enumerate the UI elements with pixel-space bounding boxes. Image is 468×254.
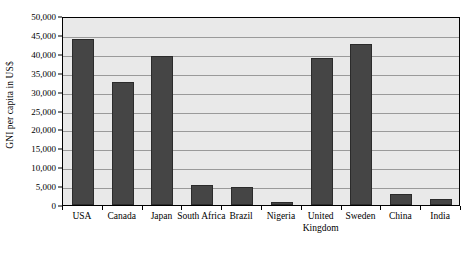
bar-slot (63, 18, 103, 205)
x-axis-tick-mark (261, 206, 262, 210)
bar (151, 56, 173, 205)
bar-slot (262, 18, 302, 205)
bar-slot (342, 18, 382, 205)
bar (430, 199, 452, 205)
y-axis-tick-label: 40,000 (31, 50, 56, 59)
y-axis-tick-label: 10,000 (31, 164, 56, 173)
x-axis-tick-mark (62, 206, 63, 210)
x-axis-tick-label: India (414, 211, 466, 223)
bar-slot (421, 18, 460, 205)
x-axis-tick-mark (142, 206, 143, 210)
x-axis-tick-mark (380, 206, 381, 210)
bar (72, 39, 94, 205)
y-axis-tick-label: 30,000 (31, 88, 56, 97)
y-axis-tick-label: 35,000 (31, 69, 56, 78)
y-axis-tick-label: 50,000 (31, 13, 56, 22)
bar (390, 194, 412, 205)
bar-slot (182, 18, 222, 205)
bar-chart: GNI per capita in US$ 50,00045,00040,000… (0, 0, 468, 254)
bar-slot (222, 18, 262, 205)
x-axis-tick-mark (102, 206, 103, 210)
y-axis-tick-label: 5,000 (36, 183, 56, 192)
x-axis-tick-mark (460, 206, 461, 210)
y-axis-tick-label: 25,000 (31, 107, 56, 116)
y-axis-tick-label: 15,000 (31, 145, 56, 154)
y-axis-tick-label: 45,000 (31, 31, 56, 40)
bar-slot (381, 18, 421, 205)
bar (231, 187, 253, 205)
y-axis-title-text: GNI per capita in US$ (5, 61, 15, 149)
bar-slot (143, 18, 183, 205)
bar (112, 82, 134, 205)
bar-slot (302, 18, 342, 205)
bar-slot (103, 18, 143, 205)
y-axis-tick-label: 0 (52, 202, 57, 211)
bar (311, 58, 333, 205)
bar (350, 44, 372, 205)
x-axis-tick-mark (221, 206, 222, 210)
x-axis-tick-mark (301, 206, 302, 210)
x-axis-tick-mark (341, 206, 342, 210)
bar (271, 202, 293, 205)
x-axis-tick-mark (181, 206, 182, 210)
x-axis-tick-mark (420, 206, 421, 210)
y-axis-tick-label: 20,000 (31, 126, 56, 135)
bar (191, 185, 213, 205)
y-axis-title: GNI per capita in US$ (0, 0, 20, 210)
x-axis-tick-labels: USACanadaJapanSouth AfricaBrazilNigeriaU… (62, 211, 460, 251)
plot-area (62, 17, 460, 206)
y-axis-tick-labels: 50,00045,00040,00035,00030,00025,00020,0… (18, 17, 58, 206)
